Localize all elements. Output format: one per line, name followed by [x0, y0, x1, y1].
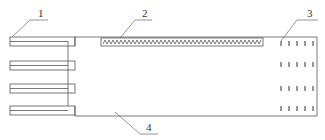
substrate-body	[75, 37, 317, 116]
callout-3: 3	[281, 7, 318, 41]
connector-tabs	[10, 37, 75, 115]
tick-row	[281, 62, 313, 67]
label-3: 3	[307, 7, 313, 19]
connector-tab	[10, 37, 75, 46]
tick-row	[281, 106, 313, 111]
callout-1: 1	[12, 7, 48, 37]
connector-tab	[10, 84, 75, 93]
tick-row	[281, 86, 313, 91]
diagram-canvas: 1 2 3 4	[0, 0, 325, 140]
tick-array	[281, 41, 313, 111]
callout-2: 2	[120, 7, 152, 38]
callout-4: 4	[115, 112, 158, 134]
label-1: 1	[38, 7, 44, 19]
connector-tab	[10, 61, 75, 70]
label-2: 2	[142, 7, 148, 19]
connector-tab	[10, 106, 75, 115]
tick-row	[281, 41, 313, 46]
label-4: 4	[146, 121, 152, 133]
serpentine-heater	[101, 38, 263, 46]
